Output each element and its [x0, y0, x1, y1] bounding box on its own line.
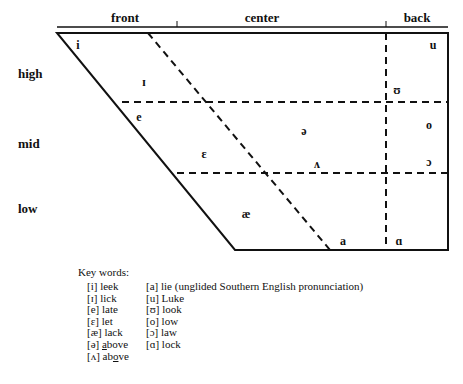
key-words-left-column: [i] leek[ɪ] lick[e] late[ɛ] let[æ] lack[…: [87, 281, 129, 362]
key-word-symbol: [e]: [87, 303, 102, 315]
key-word-symbol: [ɔ]: [146, 326, 161, 338]
key-word-symbol: [o]: [146, 315, 162, 327]
key-word-text: law: [161, 326, 177, 338]
key-word-text: let: [102, 315, 113, 327]
key-word-symbol: [ɛ]: [87, 315, 102, 327]
key-word-entry: [ʌ] above: [87, 351, 129, 363]
dashed-diagonal-divider: [148, 33, 330, 250]
vowel-quadrilateral-outline: [57, 33, 448, 250]
vowel-a: a: [340, 235, 346, 247]
column-header-front: front: [111, 10, 139, 26]
row-label-high: high: [18, 66, 43, 82]
row-label-mid: mid: [18, 136, 40, 152]
row-label-low: low: [18, 201, 38, 217]
key-word-symbol: [u]: [146, 292, 162, 304]
key-word-symbol: [ɑ]: [146, 338, 162, 350]
key-word-stressed-letter: o: [113, 350, 119, 362]
vowel-upsilon: ʊ: [393, 84, 400, 96]
key-word-text: look: [162, 303, 182, 315]
key-word-text: lie (unglided Southern English pronuncia…: [161, 280, 363, 292]
key-word-symbol: [i]: [87, 280, 100, 292]
vowel-epsilon: ɛ: [201, 148, 206, 160]
vowel-schwa: ə: [301, 125, 306, 137]
vowel-o: o: [426, 119, 432, 131]
key-word-text: Luke: [162, 292, 185, 304]
vowel-script-a: ɑ: [396, 235, 403, 247]
vowel-e: e: [136, 111, 141, 123]
column-header-back: back: [404, 10, 431, 26]
vowel-ash: æ: [242, 208, 251, 220]
vowel-open-o: ɔ: [426, 156, 431, 168]
key-word-entry: [o] low: [146, 316, 363, 328]
key-word-text: above: [102, 338, 128, 350]
key-word-text: lick: [100, 292, 117, 304]
key-words-section: Key words: [i] leek[ɪ] lick[e] late[ɛ] l…: [78, 266, 458, 365]
column-header-center: center: [245, 10, 280, 26]
key-word-stressed-letter: a: [102, 338, 107, 350]
key-word-symbol: [a]: [146, 280, 161, 292]
key-word-symbol: [ʊ]: [146, 303, 162, 315]
vowel-u: u: [430, 39, 437, 51]
key-words-columns: [i] leek[ɪ] lick[e] late[ɛ] let[æ] lack[…: [78, 281, 458, 365]
key-word-symbol: [æ]: [87, 326, 104, 338]
vowel-i: i: [76, 39, 79, 51]
key-word-entry: [ʊ] look: [146, 304, 363, 316]
key-word-text: above: [103, 350, 129, 362]
key-word-entry: [ɑ] lock: [146, 339, 363, 351]
key-word-symbol: [ə]: [87, 338, 102, 350]
key-word-symbol: [ʌ]: [87, 350, 103, 362]
key-word-text: leek: [100, 280, 118, 292]
vowel-chart-page: front center back high mid low i ɪ e ɛ æ…: [0, 0, 463, 384]
vowel-wedge: ʌ: [314, 158, 320, 170]
key-word-text: low: [162, 315, 179, 327]
key-word-text: lock: [162, 338, 181, 350]
key-words-title: Key words:: [78, 266, 458, 278]
key-word-symbol: [ɪ]: [87, 292, 100, 304]
key-words-right-column: [a] lie (unglided Southern English pronu…: [146, 281, 363, 351]
key-word-text: lack: [104, 326, 122, 338]
key-word-text: late: [102, 303, 118, 315]
vowel-small-cap-i: ɪ: [142, 76, 145, 88]
